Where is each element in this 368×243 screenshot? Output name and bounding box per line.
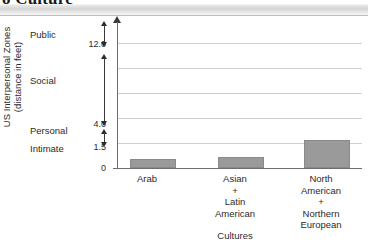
gridline xyxy=(118,68,362,69)
x-category-line: American xyxy=(192,208,278,220)
x-category-label-north-american-northern-european: North American + Northern European xyxy=(278,173,364,231)
x-category-line: Asian xyxy=(192,173,278,185)
x-category-line: American xyxy=(278,185,364,197)
bar-north-american-northern-european xyxy=(304,140,350,168)
y-axis-title-line1: US Interpersonal Zones xyxy=(1,17,12,137)
y-tick-12: 12.0 xyxy=(76,39,106,49)
x-category-line: European xyxy=(278,219,364,231)
y-tick-1-5: 1.5 xyxy=(76,142,106,152)
plot-area xyxy=(118,22,362,169)
y-tick-4: 4.0 xyxy=(76,119,106,129)
x-category-label-asian-latin-american: Asian + Latin American xyxy=(192,173,278,219)
bar-asian-latin-american xyxy=(218,157,264,168)
x-category-line: Latin xyxy=(192,196,278,208)
y-axis-title-line2: (distance in feet) xyxy=(12,17,23,137)
y-axis-title: US Interpersonal Zones (distance in feet… xyxy=(1,17,27,137)
bar-chart: US Interpersonal Zones (distance in feet… xyxy=(0,16,368,243)
gridline xyxy=(118,93,362,94)
x-category-line: Northern xyxy=(278,208,364,220)
page-title: o Culture xyxy=(2,0,73,9)
x-category-line: North xyxy=(278,173,364,185)
x-category-line: Arab xyxy=(104,173,190,185)
y-tick-0: 0 xyxy=(76,163,106,173)
bar-arab xyxy=(130,159,176,168)
page-header-band: o Culture xyxy=(0,0,368,16)
gridline xyxy=(118,118,362,119)
bracket-stem xyxy=(104,58,105,122)
x-category-line: + xyxy=(278,196,364,208)
zone-label-social: Social xyxy=(30,76,90,86)
x-category-label-arab: Arab xyxy=(104,173,190,185)
x-category-line: + xyxy=(192,185,278,197)
bracket-arrow-social xyxy=(100,54,109,126)
gridline xyxy=(118,43,362,44)
x-axis-title: Cultures xyxy=(192,230,278,242)
